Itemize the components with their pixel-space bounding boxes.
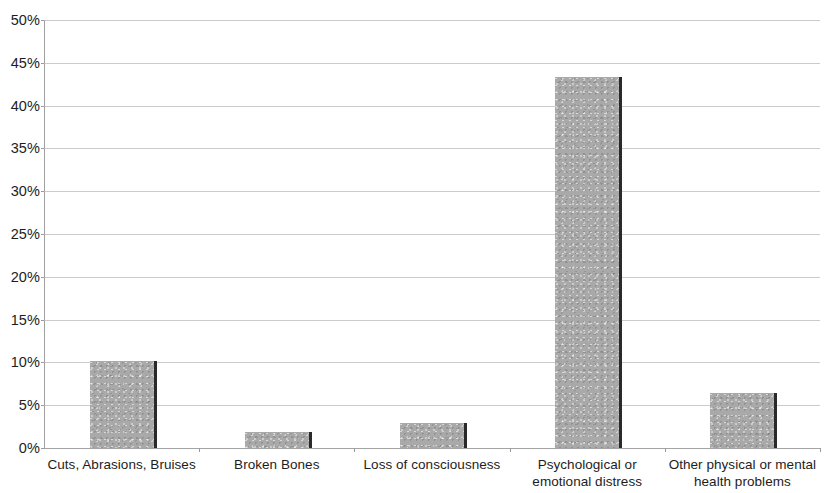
x-axis-tick-mark [665, 448, 666, 452]
x-axis-category-label: Cuts, Abrasions, Bruises [37, 456, 206, 473]
bar [710, 393, 777, 448]
gridline [44, 20, 820, 21]
x-axis-category-label: Broken Bones [192, 456, 361, 473]
bar [90, 361, 157, 448]
bar [245, 432, 312, 448]
y-axis-tick-label: 25% [0, 226, 40, 242]
gridline [44, 277, 820, 278]
bar-chart: 0%5%10%15%20%25%30%35%40%45%50% Cuts, Ab… [0, 0, 836, 493]
gridline [44, 405, 820, 406]
x-axis-tick-mark [354, 448, 355, 452]
gridline [44, 448, 820, 449]
y-axis-tick-label: 15% [0, 312, 40, 328]
x-axis-category-labels: Cuts, Abrasions, BruisesBroken BonesLoss… [44, 456, 820, 493]
x-axis-category-label: Loss of consciousness [347, 456, 516, 473]
gridline [44, 63, 820, 64]
y-axis-tick-label: 40% [0, 98, 40, 114]
plot-area [44, 20, 820, 448]
y-axis-tick-label: 0% [0, 440, 40, 456]
x-axis-category-label-line1: Broken Bones [234, 457, 319, 472]
y-axis-tick-label: 50% [0, 12, 40, 28]
y-axis-tick-label: 35% [0, 140, 40, 156]
y-axis-tick-label: 5% [0, 397, 40, 413]
y-axis-tick-labels: 0%5%10%15%20%25%30%35%40%45%50% [0, 20, 40, 448]
y-axis-tick-label: 10% [0, 354, 40, 370]
x-axis-category-label-line1: Other physical or mental [669, 457, 817, 472]
bar [555, 77, 622, 448]
x-axis-category-label-line2: health problems [658, 473, 827, 490]
bar [400, 423, 467, 448]
x-axis-tick-mark [199, 448, 200, 452]
x-axis-tick-mark [510, 448, 511, 452]
x-axis-category-label-line1: Cuts, Abrasions, Bruises [47, 457, 195, 472]
x-axis-category-label-line2: emotional distress [503, 473, 672, 490]
x-axis-category-label: Psychological oremotional distress [503, 456, 672, 490]
gridline [44, 320, 820, 321]
gridline [44, 106, 820, 107]
y-axis-tick-label: 45% [0, 55, 40, 71]
x-axis-tick-mark [820, 448, 821, 452]
y-axis-tick-label: 30% [0, 183, 40, 199]
x-axis-category-label: Other physical or mentalhealth problems [658, 456, 827, 490]
x-axis-category-label-line1: Psychological or [538, 457, 637, 472]
gridline [44, 234, 820, 235]
gridline [44, 191, 820, 192]
gridline [44, 148, 820, 149]
y-axis-tick-label: 20% [0, 269, 40, 285]
gridline [44, 362, 820, 363]
x-axis-category-label-line1: Loss of consciousness [364, 457, 501, 472]
